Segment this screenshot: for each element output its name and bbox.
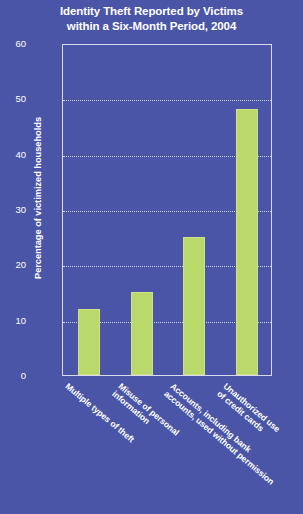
bar[interactable] bbox=[131, 292, 153, 375]
chart-title-line-1: Identity Theft Reported by Victims bbox=[0, 4, 303, 19]
chart-page: Identity Theft Reported by Victims withi… bbox=[0, 0, 303, 514]
bar[interactable] bbox=[183, 237, 205, 375]
x-axis-label-line: accounts, used without permission bbox=[162, 389, 276, 487]
y-axis-title: Percentage of victimized households bbox=[33, 88, 43, 308]
y-tick-label: 10 bbox=[0, 316, 26, 326]
y-tick-label: 0 bbox=[0, 371, 26, 381]
plot-area: 0102030405060 bbox=[62, 44, 272, 376]
page-title: Identity Theft Reported by Victims withi… bbox=[0, 4, 303, 34]
gridline bbox=[63, 100, 271, 101]
chart-title-line-2: within a Six-Month Period, 2004 bbox=[0, 19, 303, 34]
y-tick-label: 30 bbox=[0, 205, 26, 215]
y-tick-label: 60 bbox=[0, 39, 26, 49]
y-tick-label: 50 bbox=[0, 94, 26, 104]
y-tick-label: 40 bbox=[0, 150, 26, 160]
bar[interactable] bbox=[78, 309, 100, 375]
y-tick-label: 20 bbox=[0, 260, 26, 270]
bar[interactable] bbox=[236, 109, 258, 375]
